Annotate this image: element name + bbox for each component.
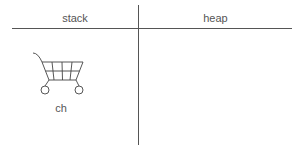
heap-column-header: heap — [139, 12, 292, 24]
header-divider — [12, 28, 292, 29]
stack-column-header: stack — [12, 12, 138, 24]
shopping-cart-icon — [30, 50, 90, 100]
variable-label-ch: ch — [46, 102, 76, 114]
column-divider — [138, 5, 139, 145]
